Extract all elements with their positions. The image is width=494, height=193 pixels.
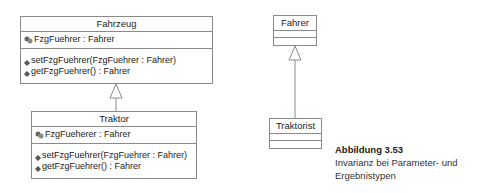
operation-row: setFzgFuehrer(FzgFuehrer : Fahrer) xyxy=(35,150,196,161)
operations-compartment: setFzgFuehrer(FzgFuehrer : Fahrer) getFz… xyxy=(32,144,196,172)
attribute-row: FzgFueherer : Fahrer xyxy=(35,129,196,140)
operation-text: setFzgFuehrer(FzgFuehrer : Fahrer) xyxy=(31,55,176,66)
class-name: Fahrer xyxy=(274,16,316,31)
operation-row: getFzgFuehrer() : Fahrer xyxy=(35,161,196,172)
class-name: Traktorist xyxy=(270,119,321,134)
operation-text: getFzgFuehrer() : Fahrer xyxy=(31,66,130,77)
operations-compartment xyxy=(274,38,316,45)
attributes-compartment xyxy=(270,134,321,141)
operation-icon xyxy=(24,69,30,75)
operation-icon xyxy=(24,58,30,64)
generalization-arrowhead-fahrer xyxy=(289,46,301,60)
operation-row: setFzgFuehrer(FzgFuehrer : Fahrer) xyxy=(24,55,212,66)
operation-text: setFzgFuehrer(FzgFuehrer : Fahrer) xyxy=(42,150,187,161)
attribute-row: FzgFuehrer : Fahrer xyxy=(24,34,212,45)
operation-icon xyxy=(35,153,41,159)
operation-text: getFzgFuehrer() : Fahrer xyxy=(42,161,141,172)
class-fahrer[interactable]: Fahrer xyxy=(273,15,317,46)
attribute-text: FzgFueherer : Fahrer xyxy=(45,129,131,140)
attributes-compartment: FzgFuehrer : Fahrer xyxy=(21,32,212,49)
class-traktorist[interactable]: Traktorist xyxy=(269,118,322,149)
operations-compartment: setFzgFuehrer(FzgFuehrer : Fahrer) getFz… xyxy=(21,49,212,77)
generalization-arrowhead-fahrzeug xyxy=(110,84,122,98)
operations-compartment xyxy=(270,141,321,148)
attribute-icon xyxy=(24,36,33,44)
operation-row: getFzgFuehrer() : Fahrer xyxy=(24,66,212,77)
class-fahrzeug[interactable]: Fahrzeug FzgFuehrer : Fahrer setFzgFuehr… xyxy=(20,16,213,84)
class-traktor[interactable]: Traktor FzgFueherer : Fahrer setFzgFuehr… xyxy=(31,111,197,179)
attributes-compartment: FzgFueherer : Fahrer xyxy=(32,127,196,144)
attribute-text: FzgFuehrer : Fahrer xyxy=(34,34,115,45)
attribute-icon xyxy=(35,131,44,139)
class-name: Fahrzeug xyxy=(21,17,212,32)
attributes-compartment xyxy=(274,31,316,38)
figure-caption: Abbildung 3.53 Invarianz bei Parameter- … xyxy=(335,143,458,182)
caption-title: Abbildung 3.53 xyxy=(335,143,458,156)
caption-line-1: Invarianz bei Parameter- und xyxy=(335,156,458,169)
operation-icon xyxy=(35,164,41,170)
class-name: Traktor xyxy=(32,112,196,127)
caption-line-2: Ergebnistypen xyxy=(335,169,458,182)
